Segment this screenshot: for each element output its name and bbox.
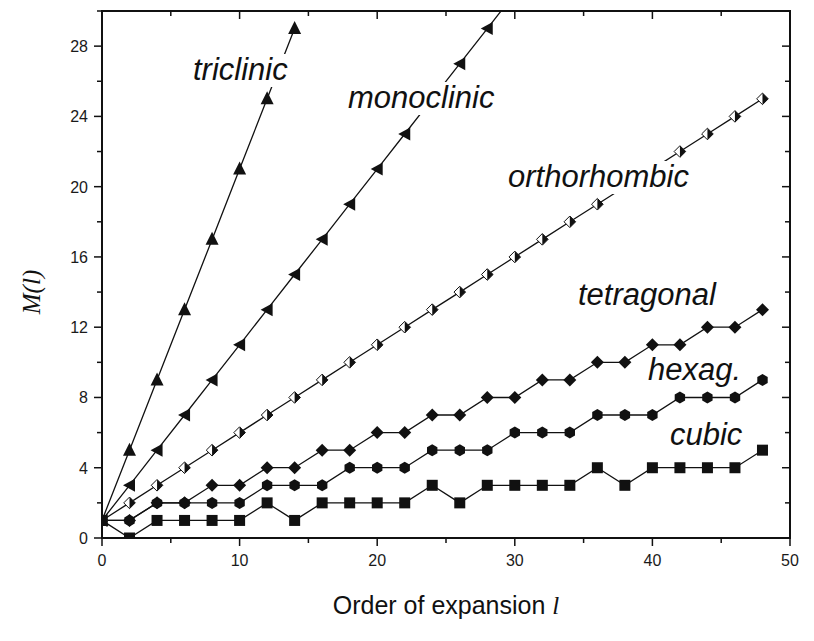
data-point-marker (233, 162, 246, 175)
data-point-marker (455, 444, 465, 456)
series-line (102, 450, 763, 538)
data-point-marker (432, 304, 438, 316)
data-point-marker (178, 302, 191, 315)
x-tick-label: 30 (506, 552, 524, 569)
data-point-marker (233, 479, 246, 492)
data-point-marker (508, 391, 521, 404)
data-point-marker (316, 444, 329, 457)
data-point-marker (240, 427, 246, 439)
data-point-marker (647, 462, 658, 473)
data-point-marker (289, 479, 299, 491)
data-point-marker (482, 444, 492, 456)
series-label: hexag. (648, 352, 741, 387)
y-tick-label: 8 (79, 389, 88, 406)
data-point-marker (152, 515, 163, 526)
data-point-marker (482, 480, 493, 491)
data-point-marker (537, 427, 547, 439)
data-point-marker (460, 286, 466, 298)
data-point-marker (707, 128, 713, 140)
x-tick-label: 50 (781, 552, 799, 569)
data-point-marker (295, 392, 301, 404)
data-point-marker (289, 515, 300, 526)
series-triclinic (96, 21, 302, 526)
data-point-marker (179, 515, 190, 526)
data-point-marker (343, 198, 355, 211)
x-tick-label: 10 (231, 552, 249, 569)
data-point-marker (680, 146, 686, 158)
data-point-marker (207, 515, 218, 526)
data-point-marker (371, 426, 384, 439)
data-point-marker (206, 479, 219, 492)
data-point-marker (728, 321, 741, 334)
data-point-marker (701, 321, 714, 334)
series-label: tetragonal (578, 277, 717, 312)
data-point-marker (288, 461, 301, 474)
data-point-marker (729, 462, 740, 473)
data-point-marker (453, 57, 465, 70)
data-point-marker (597, 198, 603, 210)
data-point-marker (398, 127, 410, 140)
data-point-marker (620, 409, 630, 421)
data-point-marker (427, 480, 438, 491)
y-tick-label: 0 (79, 530, 88, 547)
data-point-marker (619, 480, 630, 491)
data-point-marker (515, 251, 521, 263)
data-point-marker (454, 497, 465, 508)
data-point-marker (592, 462, 603, 473)
x-axis-title: Order of expansion l (333, 591, 560, 619)
data-point-marker (123, 514, 136, 527)
data-point-marker (398, 426, 411, 439)
data-point-marker (123, 479, 135, 492)
chart-svg: triclinicmonoclinicorthorhombictetragona… (0, 0, 814, 641)
data-point-marker (647, 409, 657, 421)
data-point-marker (234, 497, 244, 509)
y-tick-label: 20 (70, 179, 88, 196)
data-point-marker (151, 372, 164, 385)
data-point-marker (267, 409, 273, 421)
data-point-marker (371, 163, 383, 176)
data-point-marker (509, 480, 520, 491)
data-point-marker (343, 444, 356, 457)
data-point-marker (261, 91, 274, 104)
data-point-marker (563, 373, 576, 386)
data-point-marker (212, 444, 218, 456)
data-point-marker (756, 303, 769, 316)
chart: triclinicmonoclinicorthorhombictetragona… (0, 0, 814, 641)
y-tick-label: 16 (70, 249, 88, 266)
data-point-marker (157, 480, 163, 492)
x-tick-label: 0 (98, 552, 107, 569)
data-point-marker (317, 497, 328, 508)
data-point-marker (592, 409, 602, 421)
data-point-marker (399, 497, 410, 508)
data-point-marker (262, 479, 272, 491)
y-axis-title: M(l) (18, 270, 46, 315)
series-label: triclinic (193, 52, 288, 87)
data-point-marker (730, 392, 740, 404)
data-point-marker (322, 374, 328, 386)
x-tick-label: 40 (644, 552, 662, 569)
y-tick-label: 28 (70, 38, 88, 55)
data-point-marker (151, 496, 164, 509)
series-label: monoclinic (348, 80, 495, 115)
data-point-marker (178, 496, 191, 509)
data-point-marker (400, 462, 410, 474)
data-point-marker (542, 234, 548, 246)
data-point-marker (762, 93, 768, 105)
data-point-marker (405, 321, 411, 333)
data-point-marker (345, 462, 355, 474)
data-point-marker (261, 461, 274, 474)
data-point-marker (372, 462, 382, 474)
data-point-marker (426, 409, 439, 422)
data-point-marker (372, 497, 383, 508)
data-point-marker (350, 357, 356, 369)
data-point-marker (510, 427, 520, 439)
data-point-marker (344, 497, 355, 508)
data-point-marker (537, 480, 548, 491)
data-point-marker (591, 356, 604, 369)
series-labels: triclinicmonoclinicorthorhombictetragona… (190, 52, 746, 452)
data-point-marker (288, 21, 301, 34)
data-point-marker (207, 497, 217, 509)
data-point-marker (481, 391, 494, 404)
data-point-marker (261, 303, 273, 316)
data-point-marker (233, 338, 245, 351)
